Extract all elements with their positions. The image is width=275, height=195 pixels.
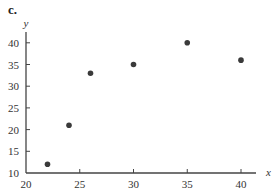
x-tick-label: 40 [236, 178, 248, 190]
y-tick-label: 25 [8, 102, 20, 114]
scatter-chart: 202530354010152025303540xy [0, 0, 275, 195]
y-tick-label: 15 [8, 145, 20, 157]
x-tick-label: 20 [21, 178, 33, 190]
y-tick-label: 20 [8, 124, 20, 136]
data-point [184, 40, 190, 46]
data-point [66, 122, 72, 128]
data-point [131, 62, 137, 68]
y-axis-label: y [23, 17, 29, 29]
x-tick-label: 35 [182, 178, 194, 190]
x-axis-label: x [265, 166, 271, 178]
data-point [238, 57, 244, 63]
data-point [45, 162, 51, 168]
x-tick-label: 30 [128, 178, 140, 190]
y-tick-label: 10 [8, 167, 20, 179]
data-points [45, 40, 244, 167]
y-tick-label: 30 [8, 80, 20, 92]
data-point [88, 70, 94, 76]
x-tick-label: 25 [74, 178, 86, 190]
y-tick-label: 35 [8, 59, 20, 71]
y-tick-label: 40 [8, 37, 20, 49]
